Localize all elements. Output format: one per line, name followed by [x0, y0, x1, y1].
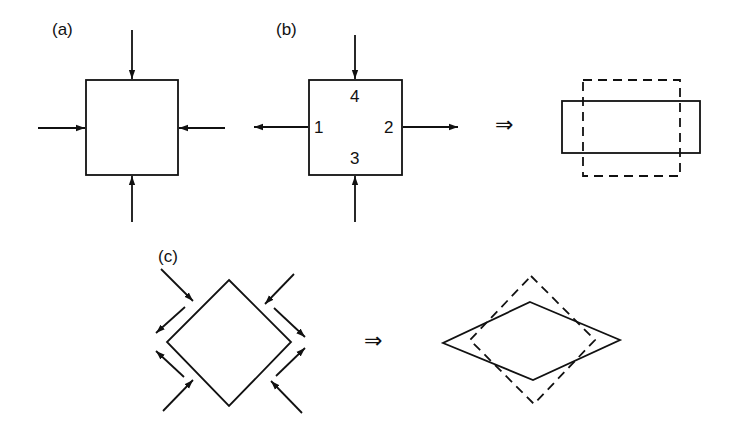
arrow-ll-inward: [163, 380, 193, 411]
original-square-dashed: [583, 80, 680, 176]
side-label-bottom: 3: [350, 149, 359, 169]
arrow-ur-inward: [265, 274, 294, 304]
arrow-lr-inward: [271, 381, 302, 413]
panel-c-label: (c): [158, 247, 178, 267]
panel-a-square: [86, 80, 178, 175]
arrow-ul-inward: [161, 269, 193, 301]
implies-arrow-b: ⇒: [495, 112, 513, 137]
panel-a-label: (a): [52, 20, 73, 40]
panel-b-figure: [254, 35, 458, 222]
panel-c-figure: [156, 269, 305, 413]
side-label-left: 1: [314, 118, 323, 138]
panel-a-figure: [38, 30, 225, 222]
diagram-canvas: [0, 0, 733, 430]
panel-c-result: [443, 276, 620, 404]
side-label-right: 2: [384, 118, 393, 138]
implies-arrow-c: ⇒: [364, 328, 382, 353]
panel-b-result: [562, 80, 700, 176]
original-diamond-dashed: [470, 276, 595, 404]
arrow-ur-shear: [274, 308, 305, 337]
panel-b-label: (b): [276, 20, 297, 40]
side-label-top: 4: [350, 87, 359, 107]
